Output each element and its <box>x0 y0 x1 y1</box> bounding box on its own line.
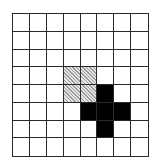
grid-cell-empty <box>64 121 81 139</box>
grid-cell-empty <box>13 85 30 103</box>
grid-cell-empty <box>47 85 64 103</box>
grid-cell-filled <box>97 103 114 121</box>
grid-cell-empty <box>131 50 148 68</box>
grid-cell-filled <box>81 103 98 121</box>
grid-cell-hatched <box>64 85 81 103</box>
grid-cell-empty <box>97 14 114 32</box>
grid-cell-hatched <box>81 85 98 103</box>
grid-cell-empty <box>131 14 148 32</box>
grid-cell-empty <box>47 67 64 85</box>
grid-cell-filled <box>114 103 131 121</box>
grid-cell-empty <box>30 50 47 68</box>
grid-cell-empty <box>30 67 47 85</box>
grid-cell-empty <box>97 50 114 68</box>
grid-cell-empty <box>131 32 148 50</box>
grid-cell-empty <box>64 138 81 156</box>
grid-cell-empty <box>30 138 47 156</box>
grid-cell-empty <box>81 32 98 50</box>
grid-cell-empty <box>64 50 81 68</box>
grid-cell-empty <box>47 138 64 156</box>
grid-cell-hatched <box>81 67 98 85</box>
grid-cell-empty <box>81 138 98 156</box>
grid-cell-empty <box>131 103 148 121</box>
grid-cell-empty <box>47 50 64 68</box>
grid-cell-empty <box>97 32 114 50</box>
grid-cell-empty <box>13 103 30 121</box>
grid-cell-empty <box>97 138 114 156</box>
grid-cell-empty <box>47 14 64 32</box>
grid-cell-empty <box>114 50 131 68</box>
grid-cell-empty <box>30 32 47 50</box>
grid-cell-empty <box>131 67 148 85</box>
grid-cell-empty <box>13 138 30 156</box>
grid-cell-empty <box>114 121 131 139</box>
grid-cell-empty <box>114 138 131 156</box>
grid-cell-empty <box>13 121 30 139</box>
grid-cell-empty <box>30 85 47 103</box>
grid-cell-empty <box>114 14 131 32</box>
grid-cell-empty <box>131 138 148 156</box>
grid-cell-empty <box>30 103 47 121</box>
grid-cell-empty <box>64 103 81 121</box>
grid-cell-empty <box>131 85 148 103</box>
grid-cell-empty <box>13 67 30 85</box>
grid-cell-empty <box>131 121 148 139</box>
grid-cell-empty <box>81 50 98 68</box>
grid-cell-empty <box>64 32 81 50</box>
grid-cell-empty <box>13 50 30 68</box>
grid-cell-empty <box>30 14 47 32</box>
grid-cell-filled <box>97 121 114 139</box>
diagram-canvas <box>0 0 156 167</box>
grid-cell-empty <box>97 67 114 85</box>
grid-cell-empty <box>114 85 131 103</box>
grid-cell-empty <box>114 32 131 50</box>
grid-cell-empty <box>114 67 131 85</box>
grid-cell-hatched <box>64 67 81 85</box>
grid-8x8 <box>12 13 149 157</box>
grid-cell-empty <box>47 121 64 139</box>
grid-cell-empty <box>64 14 81 32</box>
grid-cell-filled <box>97 85 114 103</box>
grid-cell-empty <box>47 32 64 50</box>
grid-cell-empty <box>13 14 30 32</box>
grid-cell-empty <box>30 121 47 139</box>
grid-cell-empty <box>47 103 64 121</box>
grid-cell-empty <box>81 121 98 139</box>
grid-cell-empty <box>13 32 30 50</box>
grid-cell-empty <box>81 14 98 32</box>
